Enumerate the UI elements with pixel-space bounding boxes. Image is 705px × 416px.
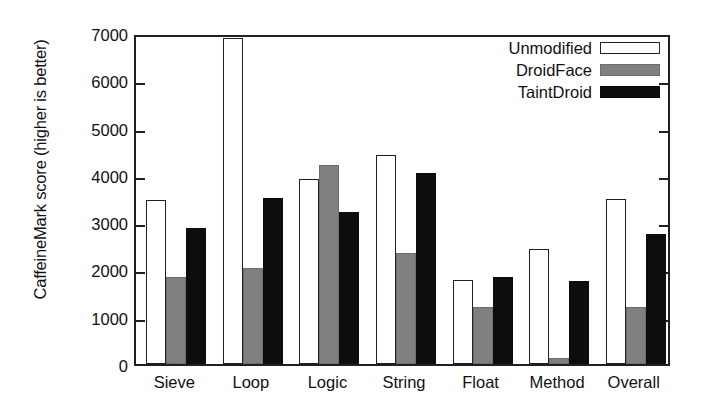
bar-float-unmodified — [453, 280, 473, 364]
y-tick-label: 1000 — [91, 311, 128, 327]
y-tick-label: 4000 — [91, 169, 128, 185]
bar-logic-droidface — [319, 165, 339, 364]
bar-sieve-droidface — [166, 277, 186, 364]
legend-label-unmodified: Unmodified — [509, 39, 592, 58]
x-tick-label-sieve: Sieve — [132, 372, 216, 392]
y-axis-tick-labels: 01000200030004000500060007000 — [0, 0, 128, 416]
x-tick-label-logic: Logic — [285, 372, 369, 392]
x-tick-label-float: Float — [439, 372, 523, 392]
x-axis-tick-labels: SieveLoopLogicStringFloatMethodOverall — [0, 372, 705, 402]
y-tick-label: 7000 — [91, 27, 128, 43]
bar-loop-droidface — [243, 268, 263, 364]
bar-method-unmodified — [529, 249, 549, 364]
bar-string-droidface — [396, 253, 416, 364]
bar-chart: CaffeineMark score (higher is better) 01… — [0, 0, 705, 416]
y-tick-label: 5000 — [91, 122, 128, 138]
bar-overall-unmodified — [606, 199, 626, 364]
y-tick-label: 2000 — [91, 263, 128, 279]
bar-overall-droidface — [626, 307, 646, 364]
bar-method-taintdroid — [569, 281, 589, 364]
bar-overall-taintdroid — [646, 234, 666, 364]
legend-swatch-taintdroid — [600, 86, 660, 98]
legend-label-taintdroid: TaintDroid — [518, 83, 592, 102]
bar-sieve-unmodified — [146, 200, 166, 364]
bar-string-unmodified — [376, 155, 396, 364]
legend-item-taintdroid: TaintDroid — [470, 82, 660, 102]
bar-logic-taintdroid — [339, 212, 359, 364]
y-tick-label: 6000 — [91, 74, 128, 90]
y-tick-label: 3000 — [91, 216, 128, 232]
x-tick-label-overall: Overall — [592, 372, 676, 392]
legend-item-droidface: DroidFace — [470, 60, 660, 80]
bar-method-droidface — [549, 358, 569, 364]
x-tick-label-loop: Loop — [209, 372, 293, 392]
x-tick-label-method: Method — [515, 372, 599, 392]
legend-swatch-unmodified — [600, 42, 660, 54]
bar-sieve-taintdroid — [186, 228, 206, 364]
legend-item-unmodified: Unmodified — [470, 38, 660, 58]
legend-label-droidface: DroidFace — [516, 61, 592, 80]
bar-float-taintdroid — [493, 277, 513, 364]
bar-float-droidface — [473, 307, 493, 364]
bar-string-taintdroid — [416, 173, 436, 364]
bar-loop-unmodified — [223, 38, 243, 364]
bar-loop-taintdroid — [263, 198, 283, 364]
x-tick-label-string: String — [362, 372, 446, 392]
legend-swatch-droidface — [600, 64, 660, 76]
bar-logic-unmodified — [299, 179, 319, 364]
legend: Unmodified DroidFace TaintDroid — [470, 38, 660, 104]
